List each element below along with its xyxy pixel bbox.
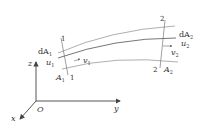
v2-label: v2 (171, 48, 179, 58)
coordinate-axes: z y x O (11, 59, 120, 123)
z-axis-label: z (27, 59, 33, 68)
section-1-bottom-label: 1 (70, 74, 74, 82)
y-axis-label: y (113, 104, 119, 113)
u2-label: u2 (181, 39, 189, 49)
section-1-top-label: 1 (61, 35, 65, 43)
section-2-top-label: 2 (160, 15, 164, 23)
x-axis-label: x (11, 114, 16, 123)
origin-label: O (37, 105, 44, 114)
stream-tube-diagram: z y x O 1 1 dA1 u1 v1 A1 2 2 dA2 u2 v2 A… (0, 0, 202, 131)
u1-label: u1 (46, 58, 54, 68)
x-axis (20, 101, 36, 119)
section-2: 2 2 dA2 u2 v2 A2 (153, 15, 193, 75)
v1-label: v1 (83, 56, 91, 66)
A1-label: A1 (55, 73, 65, 83)
tube-center-streamline (58, 38, 176, 58)
section-2-bottom-label: 2 (153, 66, 157, 74)
dA1-label: dA1 (38, 47, 52, 57)
tube-upper-wall (58, 26, 175, 53)
stream-tube (58, 26, 178, 69)
section-1: 1 1 dA1 u1 v1 A1 (38, 35, 91, 83)
A2-label: A2 (163, 65, 173, 75)
v1-arrow (74, 59, 80, 61)
